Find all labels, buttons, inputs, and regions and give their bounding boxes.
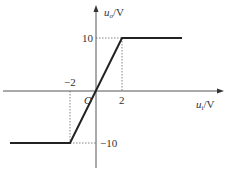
transfer-characteristic-chart: uo/V ui/V 10 −10 −2 2 O <box>0 0 226 171</box>
x-axis-label: ui/V <box>196 98 215 112</box>
x-tick-2: 2 <box>119 94 125 106</box>
x-axis-arrow-icon <box>217 89 224 94</box>
x-tick-neg2: −2 <box>64 76 76 88</box>
y-axis-label: uo/V <box>104 6 124 20</box>
origin-label: O <box>84 94 92 106</box>
y-axis-arrow-icon <box>94 5 99 12</box>
y-tick-10: 10 <box>82 32 94 44</box>
y-tick-neg10: −10 <box>100 137 118 149</box>
